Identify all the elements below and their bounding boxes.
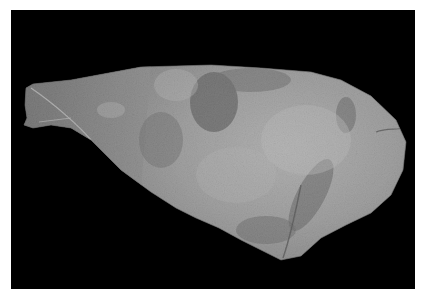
specimen: [11, 10, 415, 289]
specimen-photo: [11, 10, 415, 289]
photo-frame: Grayscale photograph of an elongated, cl…: [11, 10, 415, 289]
